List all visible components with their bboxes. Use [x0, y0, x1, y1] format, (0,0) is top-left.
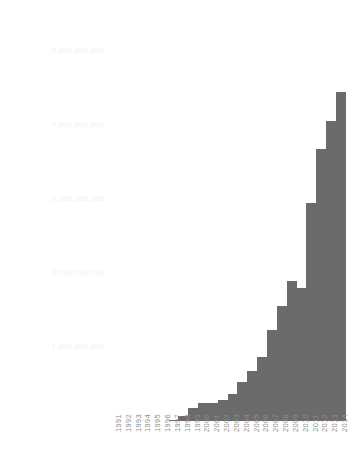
- x-axis: 1991199219931994199519961997199819992000…: [0, 421, 352, 475]
- x-tick-label: 2014: [336, 421, 347, 475]
- plot-area: 1,000,000,0002,000,000,0003,000,000,0004…: [0, 0, 352, 421]
- bar-chart: 1,000,000,0002,000,000,0003,000,000,0004…: [0, 0, 352, 475]
- x-tick-text: 2014: [341, 414, 349, 432]
- bar[interactable]: [336, 92, 347, 421]
- bar-series: [0, 0, 352, 421]
